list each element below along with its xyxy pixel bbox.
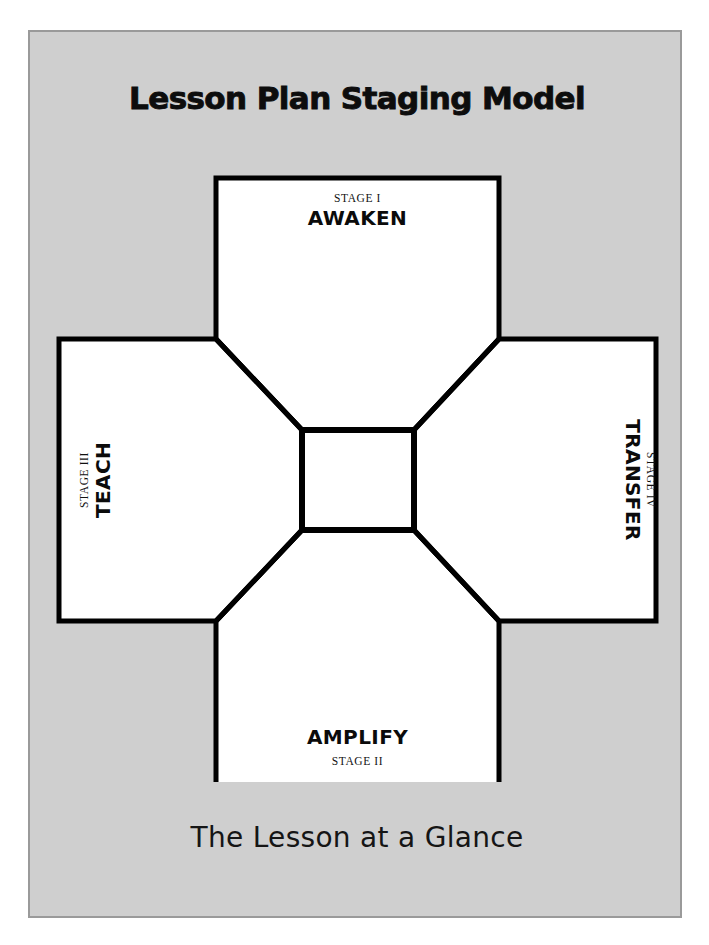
poster-page: Lesson Plan Staging Model STAGE I AWAKEN… — [0, 0, 709, 945]
poster-panel: Lesson Plan Staging Model STAGE I AWAKEN… — [28, 30, 682, 918]
poster-caption: The Lesson at a Glance — [30, 821, 684, 854]
stage-bottom-label: STAGE II — [332, 755, 383, 767]
center-square — [302, 430, 414, 530]
center-square-shape — [302, 430, 414, 530]
stage-right-name: TRANSFER — [621, 419, 645, 541]
page-title: Lesson Plan Staging Model — [30, 80, 684, 116]
stage-top-label: STAGE I — [334, 192, 381, 204]
stage-left-name: TEACH — [91, 442, 115, 518]
staging-model-diagram: STAGE I AWAKEN AMPLIFY STAGE II STAGE II… — [30, 118, 684, 782]
stage-right-label: STAGE IV — [645, 452, 657, 508]
stage-top-name: AWAKEN — [308, 206, 408, 230]
diagram-svg: STAGE I AWAKEN AMPLIFY STAGE II STAGE II… — [30, 118, 684, 782]
stage-left-label: STAGE III — [78, 452, 90, 508]
stage-bottom-name: AMPLIFY — [307, 725, 408, 749]
